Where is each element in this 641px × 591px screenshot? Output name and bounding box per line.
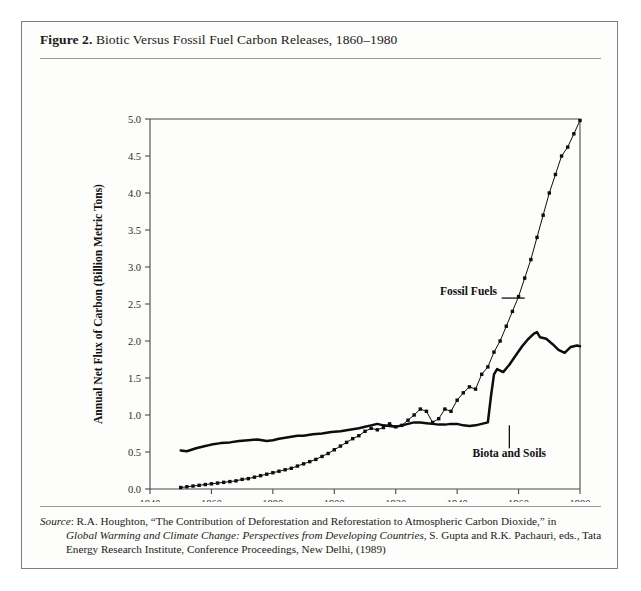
y-tick-label: 4.0 [128,188,141,199]
source-line-1: Source: R.A. Houghton, “The Contribution… [40,514,606,528]
source-line-2: Global Warming and Climate Change: Persp… [40,528,606,542]
title-divider [40,58,601,59]
x-tick-label: 1880 [262,498,283,502]
y-tick-label: 1.0 [128,410,141,421]
y-tick-label: 0.0 [128,484,141,495]
source-label: Source [40,515,71,527]
source-citation: Source: R.A. Houghton, “The Contribution… [40,514,606,557]
y-tick-label: 5.0 [128,114,141,125]
y-tick-label: 4.5 [128,151,141,162]
y-axis-title: Annual Net Flux of Carbon (Billion Metri… [92,184,105,424]
x-tick-label: 1860 [201,498,222,502]
x-tick-label: 1980 [570,498,591,502]
biota-and-soils-annotation: Biota and Soils [473,447,547,459]
figure-title: Figure 2. Biotic Versus Fossil Fuel Carb… [40,32,397,48]
y-tick-label: 1.5 [128,373,141,384]
source-book-title: Global Warming and Climate Change: Persp… [66,529,424,541]
y-tick-label: 3.5 [128,225,141,236]
chart-annotations: Fossil FuelsBiota and Soils [440,285,547,459]
figure-number: Figure 2. [40,32,92,47]
chart-plot-area: 0.00.51.01.52.02.53.03.54.04.55.0 184018… [22,66,617,502]
series-biota-and-soils [181,332,580,451]
source-line-2-text: , S. Gupta and R.K. Pachauri, eds., Tata [424,529,601,541]
x-tick-label: 1960 [508,498,529,502]
y-tick-label: 0.5 [128,447,141,458]
x-tick-label: 1900 [324,498,345,502]
y-tick-label: 2.5 [128,299,141,310]
fossil-fuels-annotation: Fossil Fuels [440,285,498,297]
carbon-flux-line-chart: 0.00.51.01.52.02.53.03.54.04.55.0 184018… [22,66,617,502]
source-divider [40,506,601,507]
y-tick-label: 2.0 [128,336,141,347]
figure-card: Figure 2. Biotic Versus Fossil Fuel Carb… [21,21,618,569]
x-axis-ticks: 18401860188019001920194019601980 [140,489,591,502]
y-axis-ticks: 0.00.51.01.52.02.53.03.54.04.55.0 [128,114,150,495]
x-tick-label: 1940 [447,498,468,502]
x-tick-label: 1920 [385,498,406,502]
chart-series-group [179,119,582,489]
series-fossil-fuels [179,119,582,489]
y-tick-label: 3.0 [128,262,141,273]
x-tick-label: 1840 [140,498,161,502]
source-line-3: Energy Research Institute, Conference Pr… [40,542,606,556]
figure-title-text: Biotic Versus Fossil Fuel Carbon Release… [92,32,397,47]
source-line-1-text: : R.A. Houghton, “The Contribution of De… [71,515,557,527]
y-axis-title-text: Annual Net Flux of Carbon (Billion Metri… [92,184,105,424]
